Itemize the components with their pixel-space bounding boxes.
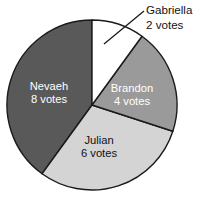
pie-chart-figure: Nevaeh 8 votes Brandon 4 votes Julian 6 … — [0, 0, 205, 197]
callout-label-gabriella-votes: 2 votes — [146, 18, 184, 31]
slice-label-nevaeh-name: Nevaeh — [30, 80, 69, 92]
slice-label-julian-name: Julian — [84, 134, 113, 146]
slice-label-brandon-votes: 4 votes — [114, 95, 150, 107]
slice-label-julian-votes: 6 votes — [81, 147, 117, 159]
slice-label-nevaeh-votes: 8 votes — [31, 93, 67, 105]
callout-label-gabriella-name: Gabriella — [146, 3, 193, 16]
pie-chart-svg: Nevaeh 8 votes Brandon 4 votes Julian 6 … — [0, 0, 205, 197]
slice-label-brandon-name: Brandon — [111, 82, 153, 94]
